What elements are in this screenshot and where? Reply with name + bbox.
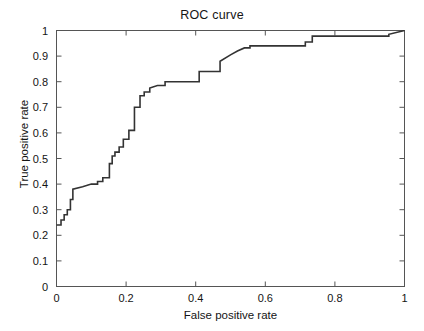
y-tick-label-0: 0 — [0, 281, 48, 292]
x-tick-label-0: 0 — [53, 293, 59, 304]
roc-curve-line — [57, 31, 405, 226]
x-tick-label-1: 0.2 — [118, 293, 133, 304]
y-tick-label-1: 0.1 — [0, 255, 48, 266]
y-tick-label-4: 0.4 — [0, 179, 48, 190]
x-tick-label-4: 0.8 — [327, 293, 342, 304]
y-tick-label-7: 0.7 — [0, 102, 48, 113]
x-axis-tick-marks — [57, 31, 405, 287]
y-tick-label-5: 0.5 — [0, 153, 48, 164]
chart-title: ROC curve — [0, 8, 424, 22]
x-axis-label: False positive rate — [56, 309, 405, 321]
y-tick-label-6: 0.6 — [0, 127, 48, 138]
roc-curve-figure: ROC curve True positive rate False posit… — [0, 0, 424, 331]
y-tick-label-3: 0.3 — [0, 204, 48, 215]
y-axis-label: True positive rate — [18, 64, 30, 224]
y-tick-label-9: 0.9 — [0, 51, 48, 62]
y-axis-tick-marks — [57, 31, 405, 287]
x-tick-label-2: 0.4 — [188, 293, 203, 304]
y-tick-label-8: 0.8 — [0, 76, 48, 87]
y-tick-label-2: 0.2 — [0, 230, 48, 241]
plot-area — [56, 30, 405, 287]
roc-plot-svg — [56, 30, 405, 287]
plot-frame — [57, 31, 405, 287]
x-tick-label-3: 0.6 — [258, 293, 273, 304]
y-tick-label-10: 1 — [0, 25, 48, 36]
x-tick-label-5: 1 — [401, 293, 407, 304]
